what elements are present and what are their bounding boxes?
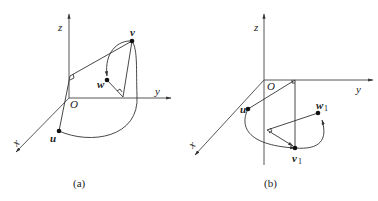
v-to-foot-line	[123, 41, 132, 97]
u-label: u	[240, 103, 246, 115]
caption-b: (b)	[264, 177, 277, 190]
point-v1	[293, 146, 298, 151]
w-label: w	[97, 78, 105, 90]
y-label: y	[154, 85, 160, 97]
origin-label: O	[70, 98, 78, 110]
w-to-foot-line	[107, 80, 123, 97]
v1-label: v 1	[292, 152, 302, 166]
svg-text:v: v	[292, 152, 297, 164]
arc-v1-to-w1	[295, 120, 324, 148]
point-v	[130, 39, 135, 44]
u-label: u	[50, 132, 56, 144]
panel-b: z y x O u w 1 v 1 (b)	[185, 14, 373, 190]
point-w	[105, 78, 110, 83]
origin-label: O	[267, 80, 275, 92]
point-u	[57, 129, 62, 134]
x-label: x	[9, 136, 22, 149]
svg-text:1: 1	[324, 104, 328, 113]
w1-label: w 1	[316, 99, 328, 113]
panel-a: z y x O v w u (a)	[9, 14, 171, 190]
point-w1	[316, 111, 321, 116]
caption-a: (a)	[73, 177, 86, 190]
z-label: z	[253, 21, 259, 33]
svg-text:w: w	[316, 99, 324, 111]
arc-v-to-w	[107, 41, 132, 76]
z-label: z	[57, 21, 63, 33]
u-to-perp-line	[59, 76, 70, 131]
vertex-to-v1-line	[267, 130, 293, 146]
x-axis	[195, 80, 264, 155]
y-label: y	[355, 83, 361, 95]
rotation-diagram: z y x O v w u (a) z y x O u w 1 v	[0, 0, 378, 201]
vertex-to-w1-line	[267, 113, 318, 130]
x-axis	[16, 98, 69, 152]
svg-text:1: 1	[298, 157, 302, 166]
point-u	[246, 107, 251, 112]
perp-to-v-line	[70, 41, 132, 76]
v-label: v	[130, 26, 135, 38]
x-label: x	[185, 138, 198, 151]
